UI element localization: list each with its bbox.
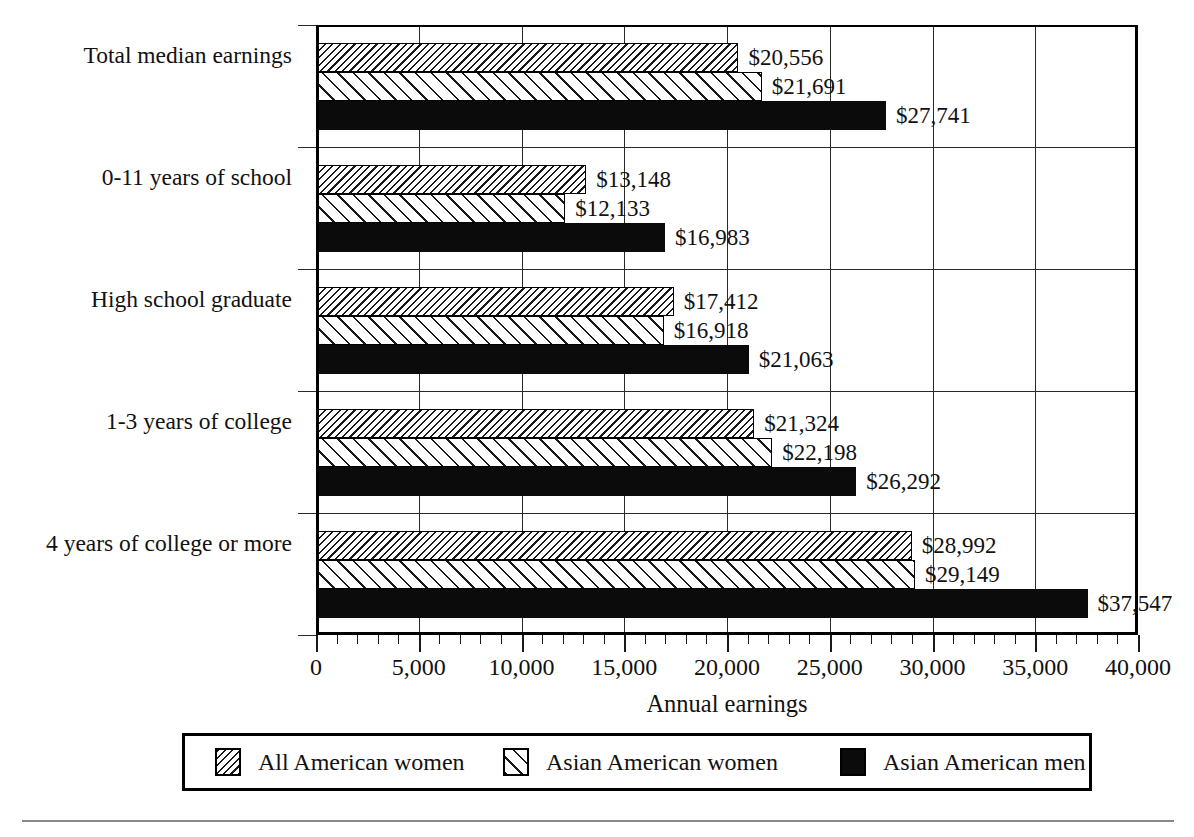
bar-value-label: $21,324	[764, 409, 839, 438]
bar-value-label: $20,556	[748, 43, 823, 72]
legend-swatch	[215, 748, 241, 776]
x-axis-tick-label: 40,000	[1105, 654, 1171, 681]
x-axis-tick-label: 0	[310, 654, 322, 681]
x-axis-major-tick	[1035, 635, 1037, 652]
x-axis-tick-label: 15,000	[591, 654, 657, 681]
x-axis-minor-tick	[398, 635, 399, 644]
x-axis-minor-tick	[460, 635, 461, 644]
x-axis-minor-tick	[357, 635, 358, 644]
category-axis-labels: Total median earnings0-11 years of schoo…	[0, 25, 292, 635]
bar-value-label: $26,292	[866, 467, 941, 496]
x-axis-minor-tick	[337, 635, 338, 644]
x-axis-tick-label: 10,000	[489, 654, 555, 681]
x-axis-minor-tick	[1097, 635, 1098, 644]
legend-label: All American women	[258, 749, 465, 776]
category-axis-tick	[298, 513, 316, 514]
x-axis-minor-tick	[871, 635, 872, 644]
footer-rule	[22, 820, 1174, 822]
category-axis-tick	[298, 391, 316, 392]
x-axis-minor-tick	[850, 635, 851, 644]
category-label: Total median earnings	[84, 42, 292, 69]
x-axis-major-tick	[316, 635, 318, 652]
x-axis-major-tick	[727, 635, 729, 652]
x-axis-minor-tick	[604, 635, 605, 644]
x-axis-minor-tick	[912, 635, 913, 644]
legend-swatch	[503, 748, 529, 776]
x-axis-major-tick	[933, 635, 935, 652]
x-axis-minor-tick	[1015, 635, 1016, 644]
x-axis-minor-tick	[768, 635, 769, 644]
legend-item: Asian American women	[503, 748, 778, 776]
x-axis-minor-tick	[953, 635, 954, 644]
category-axis-tick	[298, 25, 316, 26]
x-axis-minor-tick	[439, 635, 440, 644]
x-axis-minor-tick	[378, 635, 379, 644]
plot-area: $20,556$21,691$27,741$13,148$12,133$16,9…	[316, 25, 1138, 635]
legend-swatch	[840, 748, 866, 776]
bar-value-label: $27,741	[896, 101, 971, 130]
x-axis-minor-tick	[1117, 635, 1118, 644]
x-axis: 05,00010,00015,00020,00025,00030,00035,0…	[316, 635, 1138, 653]
category-label: High school graduate	[91, 286, 292, 313]
x-axis-minor-tick	[542, 635, 543, 644]
legend-item: Asian American men	[840, 748, 1086, 776]
x-axis-tick-label: 25,000	[797, 654, 863, 681]
x-axis-major-tick	[624, 635, 626, 652]
category-label: 1-3 years of college	[106, 408, 292, 435]
bar-value-label: $28,992	[922, 531, 997, 560]
category-label: 4 years of college or more	[46, 530, 292, 557]
x-axis-major-tick	[522, 635, 524, 652]
category-axis-tick	[298, 147, 316, 148]
x-axis-title: Annual earnings	[316, 690, 1138, 718]
x-axis-minor-tick	[1076, 635, 1077, 644]
legend-item: All American women	[215, 748, 465, 776]
bar-value-label: $16,918	[674, 316, 749, 345]
bar-value-label: $13,148	[596, 165, 671, 194]
x-axis-minor-tick	[645, 635, 646, 644]
x-axis-minor-tick	[994, 635, 995, 644]
x-axis-major-tick	[830, 635, 832, 652]
bar-value-label: $16,983	[675, 223, 750, 252]
x-axis-tick-label: 35,000	[1002, 654, 1068, 681]
legend-label: Asian American women	[546, 749, 778, 776]
bar-value-label: $22,198	[782, 438, 857, 467]
chart-legend: All American womenAsian American womenAs…	[182, 733, 1092, 791]
x-axis-minor-tick	[563, 635, 564, 644]
x-axis-tick-label: 30,000	[900, 654, 966, 681]
x-axis-minor-tick	[1056, 635, 1057, 644]
x-axis-minor-tick	[686, 635, 687, 644]
bar-value-label: $29,149	[925, 560, 1000, 589]
category-label: 0-11 years of school	[102, 164, 292, 191]
x-axis-minor-tick	[706, 635, 707, 644]
bar-value-label: $17,412	[684, 287, 759, 316]
category-axis-tick	[298, 635, 316, 636]
bar-value-label: $37,547	[1098, 589, 1173, 618]
legend-label: Asian American men	[883, 749, 1086, 776]
x-axis-minor-tick	[748, 635, 749, 644]
x-axis-minor-tick	[665, 635, 666, 644]
chart-figure: Total median earnings0-11 years of schoo…	[0, 0, 1194, 837]
x-axis-minor-tick	[583, 635, 584, 644]
x-axis-major-tick	[1138, 635, 1140, 652]
x-axis-minor-tick	[480, 635, 481, 644]
x-axis-minor-tick	[809, 635, 810, 644]
x-axis-major-tick	[419, 635, 421, 652]
bar-value-label: $21,691	[772, 72, 847, 101]
x-axis-tick-label: 5,000	[392, 654, 446, 681]
bar-value-label: $21,063	[759, 345, 834, 374]
x-axis-minor-tick	[501, 635, 502, 644]
category-axis-tick	[298, 269, 316, 270]
bar-value-label: $12,133	[575, 194, 650, 223]
x-axis-tick-label: 20,000	[694, 654, 760, 681]
x-axis-minor-tick	[974, 635, 975, 644]
x-axis-minor-tick	[891, 635, 892, 644]
x-axis-minor-tick	[789, 635, 790, 644]
